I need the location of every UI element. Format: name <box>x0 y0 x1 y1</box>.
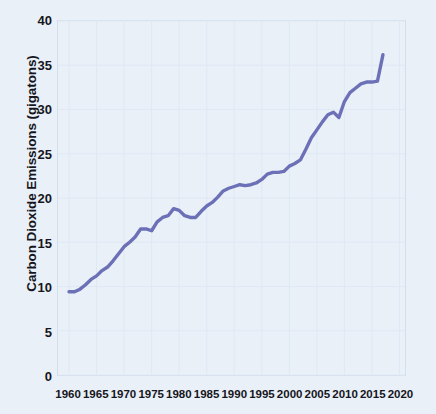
x-tick-label-2010: 2010 <box>332 388 358 400</box>
y-tick-label-40: 40 <box>24 13 52 28</box>
y-tick-label-0: 0 <box>24 369 52 384</box>
y-tick-label-25: 25 <box>24 146 52 161</box>
y-tick-label-10: 10 <box>24 280 52 295</box>
x-tick-label-1990: 1990 <box>221 388 247 400</box>
chart-svg <box>58 21 405 375</box>
x-tick-label-1975: 1975 <box>138 388 164 400</box>
x-tick-label-2020: 2020 <box>388 388 414 400</box>
y-tick-label-5: 5 <box>24 324 52 339</box>
x-tick-label-1995: 1995 <box>249 388 275 400</box>
x-tick-label-2015: 2015 <box>360 388 386 400</box>
y-tick-label-20: 20 <box>24 191 52 206</box>
y-tick-label-35: 35 <box>24 57 52 72</box>
data-line-series-0 <box>69 55 383 292</box>
x-tick-label-2000: 2000 <box>277 388 303 400</box>
x-tick-label-1960: 1960 <box>55 388 81 400</box>
x-tick-label-1980: 1980 <box>166 388 192 400</box>
x-tick-label-1985: 1985 <box>194 388 220 400</box>
chart-container: Carbon Dioxide Emissions (gigatons) 0510… <box>0 0 436 414</box>
y-axis-tick-labels: 0510152025303540 <box>20 0 52 414</box>
x-tick-label-1965: 1965 <box>83 388 109 400</box>
y-tick-label-30: 30 <box>24 102 52 117</box>
x-tick-label-1970: 1970 <box>111 388 137 400</box>
y-tick-label-15: 15 <box>24 235 52 250</box>
x-tick-label-2005: 2005 <box>305 388 331 400</box>
plot-area <box>57 20 406 376</box>
gridlines <box>58 21 405 375</box>
